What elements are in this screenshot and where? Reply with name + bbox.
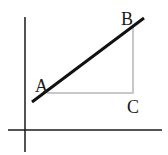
point-b-label: B — [121, 9, 133, 29]
slope-diagram: A B C — [0, 0, 168, 155]
point-a-label: A — [35, 76, 48, 96]
slope-line — [32, 18, 144, 102]
point-c-label: C — [127, 97, 139, 117]
